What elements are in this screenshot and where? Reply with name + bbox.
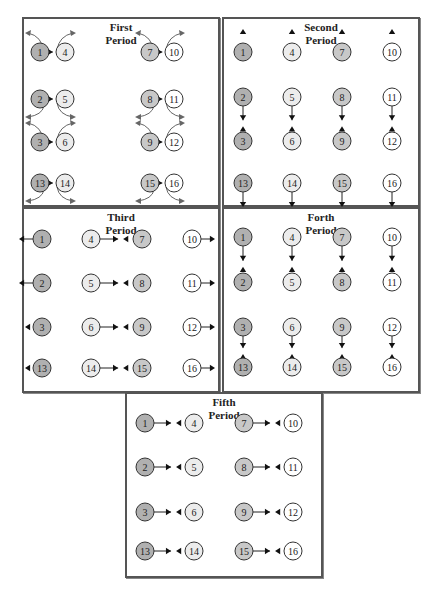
arrowhead-icon (25, 120, 31, 126)
node-9: 9 (235, 503, 253, 521)
node-10: 10 (383, 228, 401, 246)
arrowhead-icon (70, 198, 76, 204)
node-1: 1 (31, 43, 49, 61)
arrowhead-icon (123, 280, 128, 286)
node-13: 13 (234, 358, 252, 376)
node-label: 3 (241, 322, 246, 333)
node-label: 8 (140, 278, 145, 289)
arrowhead-icon (135, 114, 141, 120)
arrowhead-icon (25, 365, 30, 371)
node-10: 10 (383, 43, 401, 61)
node-3: 3 (234, 318, 252, 336)
node-13: 13 (234, 174, 252, 192)
arrowhead-icon (70, 30, 76, 36)
arrowhead-icon (25, 324, 30, 330)
node-9: 9 (333, 132, 351, 150)
node-7: 7 (235, 414, 253, 432)
arrowhead-icon (289, 202, 295, 207)
node-label: 6 (89, 322, 94, 333)
arrowhead-icon (210, 365, 215, 371)
node-label: 12 (387, 322, 397, 333)
node-label: 2 (241, 92, 246, 103)
node-5: 5 (283, 88, 301, 106)
arrowhead-icon (240, 267, 246, 272)
node-9: 9 (333, 318, 351, 336)
node-label: 7 (148, 47, 153, 58)
node-6: 6 (283, 132, 301, 150)
arrowhead-icon (70, 120, 76, 126)
arrowhead-icon (135, 120, 141, 126)
node-8: 8 (333, 273, 351, 291)
node-label: 2 (40, 278, 45, 289)
node-label: 3 (241, 136, 246, 147)
arrowhead-icon (289, 267, 295, 272)
node-8: 8 (333, 88, 351, 106)
arrowhead-icon (275, 420, 280, 426)
node-label: 16 (387, 362, 397, 373)
node-label: 9 (340, 136, 345, 147)
arrowhead-icon (179, 30, 185, 36)
node-4: 4 (283, 228, 301, 246)
arrowhead-icon (339, 256, 345, 261)
node-label: 14 (287, 362, 297, 373)
node-label: 1 (40, 234, 45, 245)
arrowhead-icon (289, 256, 295, 261)
node-label: 8 (242, 462, 247, 473)
node-label: 12 (387, 136, 397, 147)
arrowhead-icon (210, 324, 215, 330)
arrowhead-icon (389, 343, 395, 348)
node-14: 14 (283, 174, 301, 192)
node-label: 9 (340, 322, 345, 333)
arrowhead-icon (19, 280, 24, 286)
node-label: 14 (189, 546, 199, 557)
node-label: 11 (187, 278, 197, 289)
panel-forth-graph: 14710258113691213141516 (234, 228, 401, 376)
node-2: 2 (234, 88, 252, 106)
arrowhead-icon (123, 365, 128, 371)
node-16: 16 (383, 174, 401, 192)
node-1: 1 (234, 43, 252, 61)
arrowhead-icon (166, 420, 171, 426)
node-label: 6 (290, 136, 295, 147)
arrowhead-icon (176, 420, 181, 426)
node-label: 5 (290, 92, 295, 103)
node-label: 10 (288, 418, 298, 429)
arrowhead-icon (240, 29, 246, 34)
node-label: 10 (387, 232, 397, 243)
node-label: 11 (169, 94, 179, 105)
node-label: 14 (60, 178, 70, 189)
arrowhead-icon (176, 509, 181, 515)
node-label: 11 (288, 462, 298, 473)
node-label: 15 (239, 546, 249, 557)
node-label: 6 (192, 507, 197, 518)
arrowhead-icon (289, 115, 295, 120)
arrowhead-icon (289, 29, 295, 34)
node-7: 7 (133, 230, 151, 248)
arrowhead-icon (240, 256, 246, 261)
arrowhead-icon (123, 236, 128, 242)
arrowhead-icon (389, 256, 395, 261)
arrowhead-icon (339, 126, 345, 131)
node-16: 16 (383, 358, 401, 376)
node-label: 14 (86, 363, 96, 374)
arrowhead-icon (135, 30, 141, 36)
arrowhead-icon (25, 198, 31, 204)
arrowhead-icon (113, 365, 118, 371)
arrowhead-icon (339, 115, 345, 120)
arrowhead-icon (166, 464, 171, 470)
node-13: 13 (33, 359, 51, 377)
node-10: 10 (183, 230, 201, 248)
node-11: 11 (383, 273, 401, 291)
arrowhead-icon (339, 267, 345, 272)
node-label: 15 (145, 178, 155, 189)
panel-first-graph: 14710258113691213141516 (25, 30, 185, 204)
node-8: 8 (133, 274, 151, 292)
node-label: 3 (38, 137, 43, 148)
node-16: 16 (284, 542, 302, 560)
node-13: 13 (136, 542, 154, 560)
node-label: 12 (187, 322, 197, 333)
node-label: 10 (187, 234, 197, 245)
node-3: 3 (234, 132, 252, 150)
arrowhead-icon (339, 29, 345, 34)
node-6: 6 (185, 503, 203, 521)
